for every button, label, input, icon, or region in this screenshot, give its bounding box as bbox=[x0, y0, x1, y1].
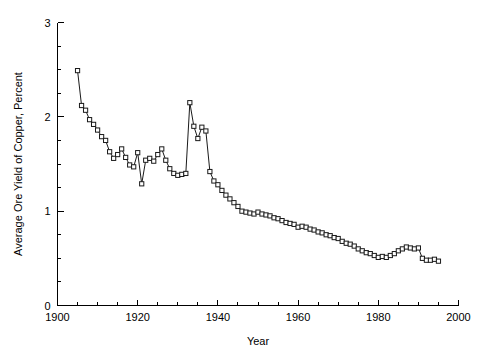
data-series bbox=[75, 69, 440, 264]
x-tick-label: 2000 bbox=[446, 311, 470, 323]
data-point-marker bbox=[436, 259, 440, 263]
data-point-marker bbox=[152, 159, 156, 163]
data-point-marker bbox=[91, 122, 95, 126]
data-point-marker bbox=[140, 182, 144, 186]
data-point-marker bbox=[192, 124, 196, 128]
data-point-marker bbox=[108, 150, 112, 154]
data-point-marker bbox=[208, 169, 212, 173]
data-point-marker bbox=[204, 129, 208, 133]
chart-figure: 190019201940196019802000 0123 Year Avera… bbox=[0, 0, 489, 358]
data-point-marker bbox=[236, 204, 240, 208]
data-point-marker bbox=[124, 155, 128, 159]
data-point-marker bbox=[132, 165, 136, 169]
data-point-marker bbox=[104, 138, 108, 142]
data-point-marker bbox=[83, 108, 87, 112]
data-point-marker bbox=[87, 118, 91, 122]
y-axis-title: Average Ore Yield of Copper, Percent bbox=[12, 72, 24, 256]
data-point-marker bbox=[416, 246, 420, 250]
data-point-marker bbox=[120, 147, 124, 151]
data-point-marker bbox=[116, 152, 120, 156]
data-point-marker bbox=[136, 151, 140, 155]
data-point-marker bbox=[196, 136, 200, 140]
copper-ore-yield-line-chart: 190019201940196019802000 0123 Year Avera… bbox=[0, 0, 489, 358]
data-point-marker bbox=[188, 101, 192, 105]
data-point-marker bbox=[184, 171, 188, 175]
data-point-marker bbox=[168, 167, 172, 171]
y-tick-label: 0 bbox=[44, 300, 50, 312]
x-tick-label: 1920 bbox=[125, 311, 149, 323]
data-point-marker bbox=[160, 147, 164, 151]
data-point-marker bbox=[75, 69, 79, 73]
x-tick-label: 1960 bbox=[286, 311, 310, 323]
axes bbox=[58, 23, 459, 306]
y-tick-label: 1 bbox=[44, 205, 50, 217]
x-tick-label: 1900 bbox=[45, 311, 69, 323]
data-point-marker bbox=[156, 152, 160, 156]
x-axis-tick-labels: 190019201940196019802000 bbox=[45, 311, 470, 323]
data-point-marker bbox=[79, 103, 83, 107]
tick-marks bbox=[58, 23, 459, 306]
x-axis-title: Year bbox=[247, 335, 270, 347]
x-tick-label: 1980 bbox=[366, 311, 390, 323]
y-axis-tick-labels: 0123 bbox=[44, 17, 50, 312]
data-point-marker bbox=[96, 128, 100, 132]
x-tick-label: 1940 bbox=[206, 311, 230, 323]
y-tick-label: 2 bbox=[44, 111, 50, 123]
data-point-marker bbox=[164, 158, 168, 162]
data-point-marker bbox=[216, 183, 220, 187]
data-point-marker bbox=[220, 188, 224, 192]
y-tick-label: 3 bbox=[44, 17, 50, 29]
